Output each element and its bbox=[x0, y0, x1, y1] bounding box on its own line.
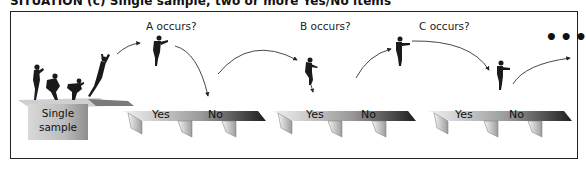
platform-a-no: No bbox=[208, 108, 223, 121]
diving-diagram bbox=[0, 0, 586, 169]
single-sample-label: Single sample bbox=[28, 106, 88, 134]
continuation-ellipsis: ••• bbox=[545, 32, 586, 42]
yes-no-platforms bbox=[122, 111, 572, 137]
diver-figures-start bbox=[33, 54, 110, 100]
platform-b-no: No bbox=[361, 108, 376, 121]
question-a-label: A occurs? bbox=[146, 20, 197, 32]
platform-b-yes: Yes bbox=[306, 108, 324, 121]
diver-figures-air bbox=[153, 36, 510, 93]
single-sample-line2: sample bbox=[28, 120, 88, 134]
question-b-label: B occurs? bbox=[300, 20, 351, 32]
platform-c-no: No bbox=[509, 108, 524, 121]
platform-a-yes: Yes bbox=[152, 108, 170, 121]
platform-c-yes: Yes bbox=[455, 108, 473, 121]
single-sample-line1: Single bbox=[28, 106, 88, 120]
question-c-label: C occurs? bbox=[419, 20, 470, 32]
